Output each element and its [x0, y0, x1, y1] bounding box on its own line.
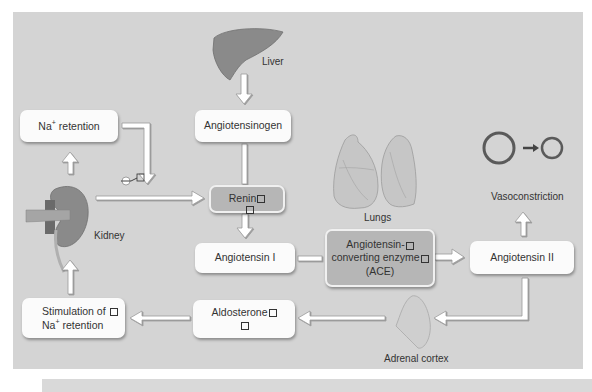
placeholder-square-icon	[421, 255, 429, 263]
vasoconstriction-label: Vasoconstriction	[491, 191, 564, 202]
angiotensin-1-box: Angiotensin I	[195, 243, 295, 273]
lungs-label: Lungs	[364, 212, 391, 223]
liver-label: Liver	[262, 56, 284, 67]
arrow-adrenal-to-aldosterone	[298, 311, 385, 325]
placeholder-square-icon	[241, 322, 249, 330]
arrow-kidney-to-na-retention	[62, 152, 78, 174]
arrows	[62, 74, 531, 325]
liver-icon	[213, 29, 283, 80]
line-angiotensinogen-to-renin	[242, 144, 247, 184]
angiotensin-2-box: Angiotensin II	[470, 241, 574, 274]
line-angiotensin-1-to-ace	[298, 256, 322, 261]
arrow-aldosterone-to-stimulation	[130, 311, 190, 325]
adrenal-cortex-icon	[396, 296, 430, 348]
arrow-angiotensin-2-to-vasoconstriction	[515, 212, 531, 236]
arrow-stimulation-to-kidney	[62, 260, 78, 294]
kidney-icon	[26, 186, 88, 272]
aldosterone-box: Aldosterone	[193, 300, 295, 338]
placeholder-square-icon	[269, 309, 277, 317]
arrow-kidney-to-renin	[96, 191, 204, 205]
arrow-angiotensin-2-to-adrenal	[434, 278, 528, 325]
stimulation-na-retention-box: Stimulation of Na+ retention	[22, 298, 125, 338]
kidney-label: Kidney	[94, 230, 125, 241]
placeholder-square-icon	[406, 242, 414, 250]
angiotensinogen-box: Angiotensinogen	[195, 110, 291, 142]
arrow-liver-to-angiotensinogen	[236, 74, 252, 104]
placeholder-square-icon	[110, 308, 118, 316]
na-retention-box: Na+ retention	[20, 110, 118, 142]
arrow-ace-to-angiotensin-2	[435, 249, 464, 264]
adrenal-cortex-label: Adrenal cortex	[384, 353, 448, 364]
placeholder-square-icon	[257, 195, 265, 203]
vessel-constriction-icon	[484, 133, 562, 163]
placeholder-square-icon	[246, 206, 254, 214]
lungs-icon	[334, 135, 417, 208]
arrow-na-retention-inhibits-renin	[122, 123, 155, 184]
arrow-renin-to-angiotensin-1	[237, 214, 253, 238]
ace-box: Angiotensin- converting enzyme (ACE)	[325, 229, 435, 287]
